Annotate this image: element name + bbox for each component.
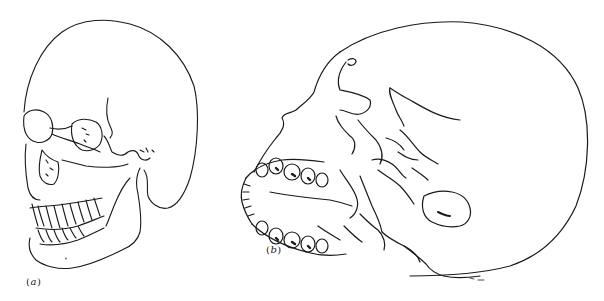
label-b-close: ) (277, 244, 281, 255)
panel-label-b: (b) (266, 244, 282, 255)
skull-basal-drawing (0, 0, 604, 301)
skull-figure: (a) (b) (0, 0, 604, 301)
panel-label-a: (a) (26, 276, 41, 287)
label-a-close: ) (37, 276, 41, 287)
